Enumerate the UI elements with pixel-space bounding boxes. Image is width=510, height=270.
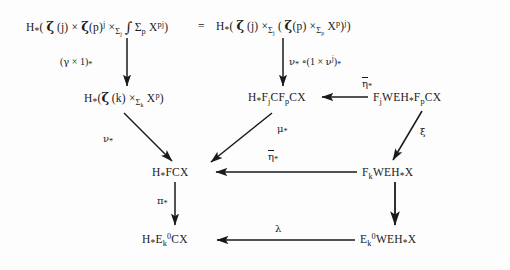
- equals-sign: =: [198, 20, 205, 32]
- mid-left-node: H*(ζ (k) ×Σk Xp): [84, 92, 164, 105]
- arrow-label-gamma-times-one: (γ × 1)*: [60, 57, 92, 67]
- arrow-label-nu-comp: ν* ∘(1 × νj)*: [289, 57, 341, 67]
- arrow-label-pi-star: π*: [157, 196, 168, 206]
- top-right-node: H*( ζ (j) ×Σj ( ζ(p) ×Σp Xp)j): [216, 20, 351, 33]
- top-left-node: H*( ζ (j) × ζ(p)j ×Σj ∫ Σp Xpj): [26, 20, 168, 34]
- commutative-diagram: H*( ζ (j) × ζ(p)j ×Σj ∫ Σp Xpj) = H*( ζ …: [0, 0, 510, 270]
- arrow-label-lambda: λ: [275, 224, 281, 234]
- arrow-xi-diag: [393, 111, 422, 160]
- arrow-label-xi: ξ: [420, 127, 426, 137]
- arrow-mid-center-diag: [211, 113, 272, 162]
- mid-center-node: H*FjCFpCX: [248, 92, 306, 104]
- arrow-label-mu-star: μ*: [277, 124, 288, 134]
- row3-left-node: H*FCX: [152, 167, 188, 179]
- arrow-label-eta-bar-star-lower: η*: [268, 152, 278, 162]
- mid-right-node: FjWEH*FpCX: [373, 92, 441, 104]
- bottom-left-node: H*Ek0CX: [142, 234, 188, 246]
- arrow-mid-left-diag: [124, 113, 172, 161]
- arrow-label-nu-star: ν*: [103, 134, 113, 144]
- bottom-right-node: Ek0WEH*X: [360, 234, 416, 246]
- arrow-label-eta-bar-star-upper: η*: [362, 79, 372, 89]
- arrow-layer: [0, 0, 510, 270]
- row3-right-node: FkWEH*X: [362, 167, 413, 179]
